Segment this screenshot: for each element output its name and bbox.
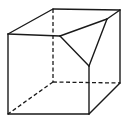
hidden-edge-line	[53, 82, 120, 83]
visible-edge-line	[53, 9, 120, 10]
visible-edge-line	[8, 34, 60, 36]
truncated-cube-diagram	[0, 0, 128, 122]
visible-edges	[8, 9, 120, 114]
visible-edge-line	[107, 10, 120, 19]
visible-edge-line	[60, 36, 89, 66]
visible-edge-line	[89, 83, 120, 114]
visible-edge-line	[60, 19, 107, 36]
visible-edge-line	[8, 9, 53, 34]
visible-edge-line	[89, 19, 107, 66]
diagram-svg	[0, 0, 128, 122]
hidden-edge-line	[8, 82, 53, 114]
